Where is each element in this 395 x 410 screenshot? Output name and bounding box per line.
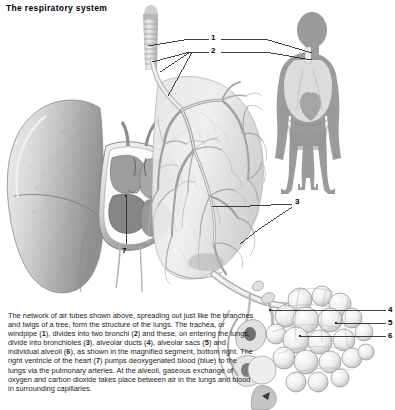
label-2: 2 [211, 47, 215, 55]
respiratory-system-figure: The respiratory system [0, 0, 395, 410]
right-lung-bronchial-tree [149, 60, 267, 284]
label-4: 4 [388, 306, 392, 314]
left-lung [7, 100, 104, 293]
label-3: 3 [295, 198, 299, 206]
figure-caption: The network of air tubes shown above, sp… [8, 311, 254, 393]
label-6: 6 [388, 332, 392, 340]
label-5: 5 [388, 319, 392, 327]
label-7: 7 [122, 247, 126, 255]
label-1: 1 [211, 34, 215, 42]
body-silhouette-inset [275, 12, 341, 194]
